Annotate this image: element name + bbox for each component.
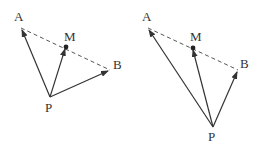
label-b: B <box>240 56 249 71</box>
label-a: A <box>142 9 152 24</box>
label-b: B <box>113 57 122 72</box>
vector-pb <box>213 72 237 127</box>
label-a: A <box>14 9 24 24</box>
vector-pa <box>149 30 213 127</box>
vector-pm <box>50 49 65 97</box>
vector-pa <box>22 30 50 97</box>
label-p: P <box>208 129 215 144</box>
label-m: M <box>64 29 76 44</box>
label-p: P <box>45 100 52 115</box>
vector-pb <box>50 71 108 97</box>
figure-right: A M B P <box>142 9 249 144</box>
figure-left: A M B P <box>14 9 122 115</box>
vector-pm <box>193 50 213 127</box>
label-m: M <box>190 29 202 44</box>
point-m <box>64 45 69 50</box>
point-m <box>191 46 196 51</box>
vector-diagram: A M B P A M B P <box>0 0 259 149</box>
